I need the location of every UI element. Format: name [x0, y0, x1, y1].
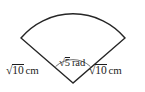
sector-figure: √10cm √10cm √5rad — [0, 0, 145, 92]
right-radius-radical: √10 — [89, 64, 107, 77]
right-radius-unit: cm — [109, 65, 122, 76]
center-angle-unit: rad — [72, 58, 85, 69]
center-angle-radical: √5 — [59, 57, 70, 69]
center-angle-label: √5rad — [59, 57, 85, 69]
right-radius-label: √10cm — [89, 64, 122, 77]
left-radius-unit: cm — [26, 65, 39, 76]
left-radius-label: √10cm — [6, 64, 39, 77]
center-angle-radicand: 5 — [65, 57, 71, 69]
left-radius-radical: √10 — [6, 64, 24, 77]
right-radius-radicand: 10 — [95, 64, 107, 77]
sector-drawing — [0, 0, 145, 92]
left-radius-radicand: 10 — [12, 64, 24, 77]
